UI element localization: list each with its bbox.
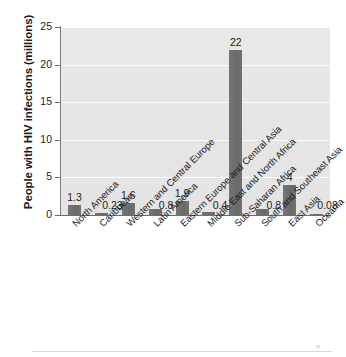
- y-tick-mark-10: [55, 140, 61, 141]
- gridline-20: [61, 65, 330, 66]
- gridline-15: [61, 102, 330, 103]
- bar-value-label: 22: [222, 37, 250, 48]
- y-tick-mark-20: [55, 65, 61, 66]
- gridline-25: [61, 27, 330, 28]
- scan-artifact-line: [32, 351, 332, 352]
- bar-value-label: 1.3: [60, 192, 88, 203]
- y-tick-mark-15: [55, 102, 61, 103]
- scan-artifact-dot: [316, 345, 320, 348]
- y-tick-label-15: 15: [30, 96, 52, 107]
- y-tick-label-25: 25: [30, 21, 52, 32]
- y-tick-label-5: 5: [30, 171, 52, 182]
- y-tick-mark-25: [55, 27, 61, 28]
- y-tick-label-0: 0: [30, 209, 52, 220]
- y-tick-mark-5: [55, 177, 61, 178]
- y-tick-label-20: 20: [30, 59, 52, 70]
- chart-figure: People with HIV infections (millions) 05…: [0, 0, 346, 357]
- y-tick-label-10: 10: [30, 134, 52, 145]
- y-axis-title: People with HIV infections (millions): [20, 7, 36, 217]
- y-tick-mark-0: [55, 215, 61, 216]
